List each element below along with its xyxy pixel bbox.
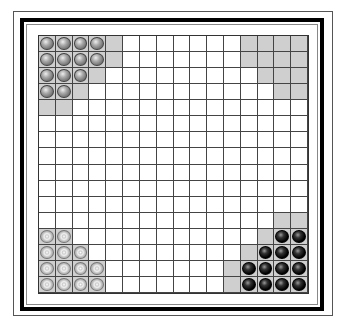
game-board[interactable]	[38, 35, 309, 294]
board-cell[interactable]	[224, 52, 241, 68]
board-cell[interactable]	[258, 229, 275, 245]
board-cell[interactable]	[241, 181, 258, 197]
board-cell[interactable]	[291, 116, 308, 132]
board-cell[interactable]	[174, 132, 191, 148]
board-cell[interactable]	[274, 261, 291, 277]
board-cell[interactable]	[207, 148, 224, 164]
board-cell[interactable]	[123, 245, 140, 261]
board-cell[interactable]	[190, 277, 207, 293]
board-cell[interactable]	[73, 116, 90, 132]
board-cell[interactable]	[106, 261, 123, 277]
board-cell[interactable]	[258, 84, 275, 100]
board-cell[interactable]	[140, 84, 157, 100]
board-cell[interactable]	[190, 245, 207, 261]
board-cell[interactable]	[224, 84, 241, 100]
board-cell[interactable]	[106, 165, 123, 181]
board-cell[interactable]	[39, 52, 56, 68]
board-cell[interactable]	[274, 116, 291, 132]
board-cell[interactable]	[140, 132, 157, 148]
board-cell[interactable]	[123, 132, 140, 148]
board-cell[interactable]	[224, 165, 241, 181]
board-cell[interactable]	[190, 100, 207, 116]
board-cell[interactable]	[274, 100, 291, 116]
board-cell[interactable]	[140, 100, 157, 116]
board-cell[interactable]	[224, 148, 241, 164]
board-cell[interactable]	[291, 100, 308, 116]
board-cell[interactable]	[207, 245, 224, 261]
board-cell[interactable]	[291, 52, 308, 68]
board-cell[interactable]	[39, 197, 56, 213]
board-cell[interactable]	[39, 165, 56, 181]
board-cell[interactable]	[56, 68, 73, 84]
board-cell[interactable]	[241, 213, 258, 229]
board-cell[interactable]	[224, 100, 241, 116]
board-cell[interactable]	[140, 229, 157, 245]
board-cell[interactable]	[140, 261, 157, 277]
board-cell[interactable]	[73, 68, 90, 84]
gray-piece-icon[interactable]	[74, 69, 88, 82]
board-cell[interactable]	[207, 36, 224, 52]
board-cell[interactable]	[140, 213, 157, 229]
board-cell[interactable]	[73, 245, 90, 261]
board-cell[interactable]	[274, 68, 291, 84]
board-cell[interactable]	[224, 197, 241, 213]
board-cell[interactable]	[258, 52, 275, 68]
board-cell[interactable]	[39, 261, 56, 277]
board-cell[interactable]	[174, 165, 191, 181]
board-cell[interactable]	[39, 181, 56, 197]
black-piece-icon[interactable]	[275, 230, 289, 243]
board-cell[interactable]	[56, 165, 73, 181]
board-cell[interactable]	[174, 277, 191, 293]
board-cell[interactable]	[106, 68, 123, 84]
board-cell[interactable]	[56, 148, 73, 164]
board-cell[interactable]	[73, 197, 90, 213]
silver-piece-icon[interactable]	[40, 246, 54, 259]
board-cell[interactable]	[291, 181, 308, 197]
silver-piece-icon[interactable]	[40, 262, 54, 275]
board-cell[interactable]	[56, 181, 73, 197]
board-cell[interactable]	[241, 84, 258, 100]
board-cell[interactable]	[224, 36, 241, 52]
board-cell[interactable]	[140, 197, 157, 213]
gray-piece-icon[interactable]	[57, 53, 71, 66]
board-cell[interactable]	[207, 132, 224, 148]
board-cell[interactable]	[56, 261, 73, 277]
board-cell[interactable]	[73, 52, 90, 68]
board-cell[interactable]	[39, 229, 56, 245]
board-cell[interactable]	[123, 181, 140, 197]
board-cell[interactable]	[56, 197, 73, 213]
black-piece-icon[interactable]	[259, 246, 273, 259]
board-cell[interactable]	[56, 132, 73, 148]
board-cell[interactable]	[207, 116, 224, 132]
board-cell[interactable]	[56, 116, 73, 132]
board-cell[interactable]	[157, 68, 174, 84]
board-cell[interactable]	[157, 229, 174, 245]
board-cell[interactable]	[89, 261, 106, 277]
board-cell[interactable]	[258, 148, 275, 164]
board-cell[interactable]	[56, 100, 73, 116]
board-cell[interactable]	[56, 84, 73, 100]
board-cell[interactable]	[224, 277, 241, 293]
board-cell[interactable]	[56, 52, 73, 68]
black-piece-icon[interactable]	[275, 246, 289, 259]
board-cell[interactable]	[140, 52, 157, 68]
board-cell[interactable]	[89, 148, 106, 164]
board-cell[interactable]	[89, 245, 106, 261]
board-cell[interactable]	[274, 52, 291, 68]
board-cell[interactable]	[174, 181, 191, 197]
board-cell[interactable]	[56, 245, 73, 261]
board-cell[interactable]	[56, 229, 73, 245]
board-cell[interactable]	[291, 277, 308, 293]
board-cell[interactable]	[39, 148, 56, 164]
board-cell[interactable]	[224, 261, 241, 277]
board-cell[interactable]	[274, 197, 291, 213]
silver-piece-icon[interactable]	[74, 262, 88, 275]
silver-piece-icon[interactable]	[57, 278, 71, 291]
board-cell[interactable]	[157, 245, 174, 261]
gray-piece-icon[interactable]	[40, 37, 54, 50]
board-cell[interactable]	[190, 116, 207, 132]
black-piece-icon[interactable]	[259, 262, 273, 275]
board-cell[interactable]	[123, 261, 140, 277]
board-cell[interactable]	[241, 36, 258, 52]
board-cell[interactable]	[157, 52, 174, 68]
